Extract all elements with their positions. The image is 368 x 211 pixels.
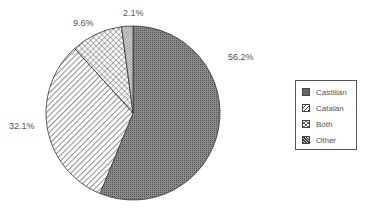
castilian-swatch-icon [302,88,310,96]
other-swatch-icon [302,136,310,144]
legend-label: Both [316,120,332,129]
legend-item-other: Other [302,135,336,145]
slice-label-castilian: 56.2% [228,52,254,62]
legend-item-both: Both [302,119,332,129]
legend-label: Castilian [316,88,347,97]
pie-slices [46,26,220,200]
legend-item-castilian: Castilian [302,87,347,97]
slice-label-catalan: 32.1% [9,121,35,131]
slice-label-other: 2.1% [123,8,144,18]
catalan-swatch-icon [302,104,310,112]
legend-item-catalan: Catalan [302,103,344,113]
both-swatch-icon [302,120,310,128]
legend: Castilian Catalan Both Other [295,80,357,150]
legend-label: Other [316,136,336,145]
slice-label-both: 9.6% [73,18,94,28]
legend-label: Catalan [316,104,344,113]
